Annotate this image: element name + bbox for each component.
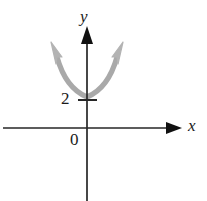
y-axis-arrowhead-icon — [81, 26, 93, 44]
y-axis-label: y — [80, 8, 88, 25]
y-tick-label-2: 2 — [61, 90, 70, 107]
x-axis-arrowhead-icon — [166, 122, 182, 134]
x-axis-group — [3, 122, 182, 134]
x-axis-label: x — [188, 117, 196, 134]
origin-label: 0 — [70, 131, 79, 148]
graph-figure: y x 2 0 — [0, 0, 207, 201]
coordinate-plane-svg — [0, 0, 207, 201]
y-axis-group — [81, 26, 93, 201]
